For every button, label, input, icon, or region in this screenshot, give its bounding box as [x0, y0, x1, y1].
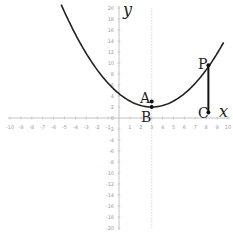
y-tick-label: 14 [108, 38, 114, 44]
origin-label: 0 [111, 115, 114, 121]
y-tick-label: 18 [108, 16, 114, 22]
x-tick-label: -5 [62, 124, 67, 130]
point-c-label: C [198, 105, 209, 121]
x-tick-label: 8 [205, 124, 208, 130]
y-axis-label: y [122, 0, 133, 19]
x-axis-label: x [219, 102, 228, 121]
x-tick-label: -4 [73, 124, 78, 130]
x-tick-label: -6 [51, 124, 56, 130]
y-tick-label: 8 [111, 71, 114, 77]
y-tick-label: 12 [108, 49, 114, 55]
point-a-label: A [139, 90, 151, 106]
y-tick-label: 4 [111, 93, 114, 99]
x-tick-label: -3 [84, 124, 89, 130]
y-tick-label: -20 [106, 225, 114, 231]
x-tick-label: 10 [225, 124, 231, 130]
point-a [150, 100, 154, 104]
x-tick-label: -7 [40, 124, 45, 130]
y-tick-label: -2 [109, 126, 114, 132]
x-tick-label: -8 [29, 124, 34, 130]
y-tick-label: 2 [111, 104, 114, 110]
point-b-label: B [141, 109, 151, 125]
y-tick-label: -4 [109, 137, 114, 143]
y-tick-label: -6 [109, 148, 114, 154]
y-tick-label: 20 [108, 5, 114, 11]
x-tick-label: -2 [95, 124, 100, 130]
y-tick-label: -8 [109, 159, 114, 165]
y-tick-label: -16 [106, 203, 114, 209]
y-tick-label: -10 [106, 170, 114, 176]
coordinate-plane: -10-9-8-7-6-5-4-3-2-112345678910-20-18-1… [0, 0, 233, 239]
x-tick-label: 7 [194, 124, 197, 130]
x-tick-label: 6 [183, 124, 186, 130]
x-tick-label: 9 [216, 124, 219, 130]
x-tick-label: -9 [18, 124, 23, 130]
y-tick-label: 10 [108, 60, 114, 66]
y-tick-label: 16 [108, 27, 114, 33]
y-tick-label: -12 [106, 181, 114, 187]
x-tick-label: 4 [161, 124, 164, 130]
point-p-label: P [198, 56, 207, 72]
x-tick-label: 1 [128, 124, 131, 130]
axes [8, 6, 230, 230]
x-tick-label: -10 [6, 124, 14, 130]
x-tick-label: 5 [172, 124, 175, 130]
y-tick-label: -18 [106, 214, 114, 220]
y-tick-label: -14 [106, 192, 114, 198]
